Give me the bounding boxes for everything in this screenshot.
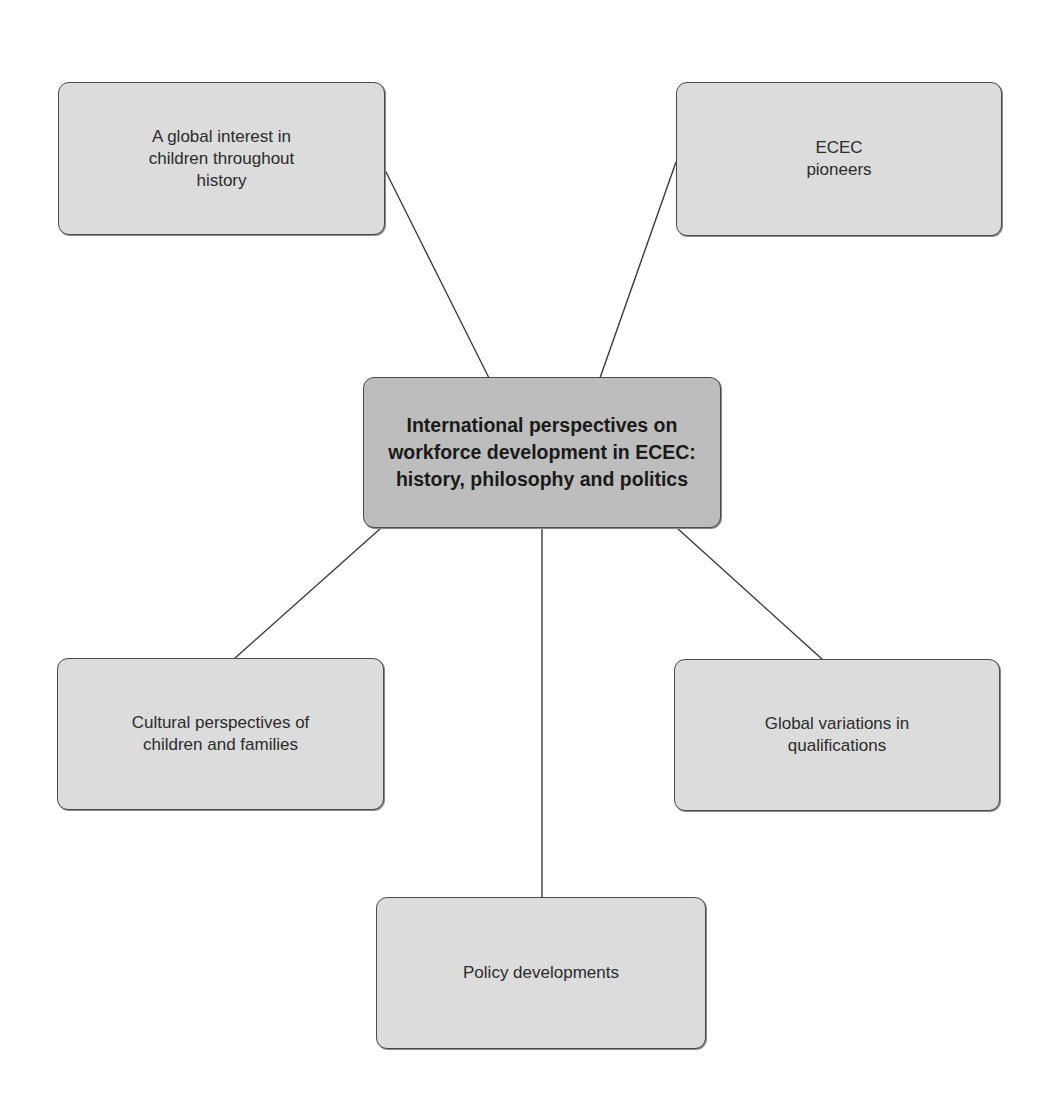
- node-label: Policy developments: [463, 962, 619, 984]
- node-ecec-pioneers: ECEC pioneers: [676, 82, 1002, 236]
- central-topic-title: International perspectives on workforce …: [388, 412, 696, 493]
- connector-top-left: [385, 170, 489, 378]
- node-global-interest-history: A global interest in children throughout…: [58, 82, 385, 235]
- node-label: A global interest in children throughout…: [149, 126, 295, 192]
- node-label: ECEC pioneers: [806, 137, 871, 181]
- central-topic-node: International perspectives on workforce …: [363, 377, 721, 528]
- connector-bottom-right: [677, 528, 823, 660]
- node-policy-developments: Policy developments: [376, 897, 706, 1049]
- connector-bottom-left: [234, 528, 381, 659]
- connector-top-right: [600, 162, 676, 378]
- node-global-variations-qualifications: Global variations in qualifications: [674, 659, 1000, 811]
- node-cultural-perspectives: Cultural perspectives of children and fa…: [57, 658, 384, 810]
- node-label: Cultural perspectives of children and fa…: [132, 712, 310, 756]
- node-label: Global variations in qualifications: [765, 713, 910, 757]
